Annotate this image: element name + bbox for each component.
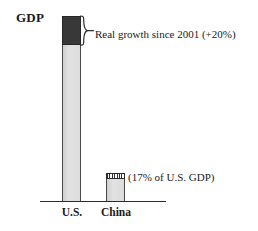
axis-title-gdp: GDP	[16, 10, 44, 26]
category-label-us: U.S.	[52, 206, 92, 218]
x-axis-baseline	[40, 201, 166, 202]
annotation-real-growth: Real growth since 2001 (+20%)	[95, 29, 236, 40]
bar-china-hatched-cap	[106, 173, 125, 179]
annotation-china-share: (17% of U.S. GDP)	[128, 172, 214, 183]
category-label-china: China	[94, 206, 138, 218]
gdp-comparison-chart: GDP Real growth since 2001 (+20%) (17% o…	[0, 0, 258, 231]
